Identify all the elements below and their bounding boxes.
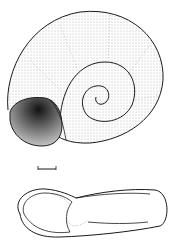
- shell-illustration: [0, 0, 172, 247]
- shell-lateral-view: [18, 189, 167, 237]
- shell-apical-view: [8, 11, 163, 146]
- scale-bar: [38, 166, 56, 170]
